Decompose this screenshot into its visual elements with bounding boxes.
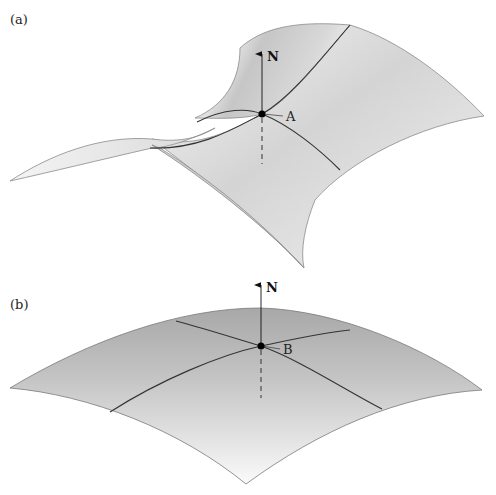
panel-b: (b) N B	[10, 280, 482, 484]
panel-b-label: (b)	[10, 297, 28, 312]
normal-label-a: N	[267, 49, 279, 64]
point-a	[259, 111, 266, 118]
point-label-a: A	[285, 109, 296, 124]
panel-a: (a) N A	[10, 12, 484, 268]
point-label-b: B	[283, 342, 293, 357]
normal-label-b: N	[266, 280, 278, 295]
dome-surface	[10, 308, 482, 484]
panel-a-label: (a)	[10, 12, 28, 27]
figure-canvas: (a) N A (b) N	[0, 0, 496, 495]
point-b	[258, 343, 265, 350]
